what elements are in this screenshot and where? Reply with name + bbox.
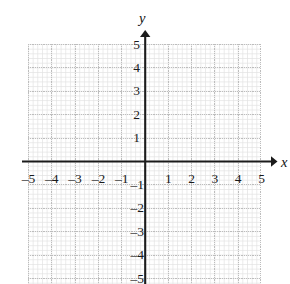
axes-svg xyxy=(0,0,290,284)
y-tick-label: –4 xyxy=(131,248,145,262)
x-tick-label: –4 xyxy=(45,172,59,186)
minor-grid-fill xyxy=(28,44,261,284)
graph-axes xyxy=(0,0,290,284)
x-tick-label: 2 xyxy=(188,172,195,186)
y-tick-label: 1 xyxy=(133,131,140,145)
x-tick-label: –3 xyxy=(68,172,82,186)
grid-svg xyxy=(28,44,261,284)
graph-grid xyxy=(28,44,261,284)
y-tick-label: 2 xyxy=(133,108,140,122)
x-tick-label: 4 xyxy=(235,172,242,186)
y-axis-label: y xyxy=(139,11,145,26)
y-tick-label: 3 xyxy=(133,85,140,99)
coordinate-plane-figure: –5 –4 –3 –2 –1 1 2 3 4 5 5 4 3 2 1 –1 –2… xyxy=(0,0,290,284)
x-tick-label: 1 xyxy=(165,172,172,186)
x-axis-arrowhead xyxy=(271,156,278,166)
x-tick-label: –2 xyxy=(92,172,106,186)
y-tick-label: –2 xyxy=(131,202,145,216)
y-tick-label: –1 xyxy=(131,178,145,192)
y-tick-label: 4 xyxy=(133,61,140,75)
y-tick-label: –5 xyxy=(131,272,145,284)
major-grid-lines xyxy=(28,44,261,284)
x-tick-label: 3 xyxy=(212,172,219,186)
x-tick-label: –5 xyxy=(22,172,36,186)
y-tick-label: –3 xyxy=(131,225,145,239)
x-axis-label: x xyxy=(281,155,287,170)
y-tick-label: 5 xyxy=(133,38,140,52)
x-tick-label: 5 xyxy=(258,172,265,186)
x-tick-label: –1 xyxy=(115,172,129,186)
y-axis-arrowhead xyxy=(140,30,150,37)
